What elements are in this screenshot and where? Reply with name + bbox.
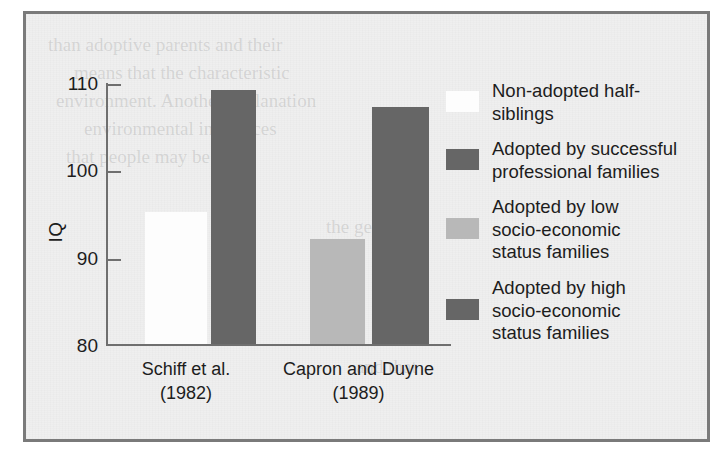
legend-label-line: status families — [492, 241, 621, 264]
bleed-line: than adoptive parents and their — [48, 32, 282, 57]
legend-item-adopted-high-ses: Adopted by high socio-economic status fa… — [446, 277, 701, 345]
legend-swatch-icon — [446, 91, 479, 112]
y-tick-label: 80 — [77, 335, 98, 357]
legend-swatch-icon — [446, 149, 479, 170]
legend-item-non-adopted-half-siblings: Non-adopted half- siblings — [446, 80, 701, 125]
legend: Non-adopted half- siblings Adopted by su… — [446, 80, 701, 358]
legend-label-line: siblings — [492, 103, 640, 126]
legend-label-line: Non-adopted half- — [492, 80, 640, 103]
bar-capron-adopted-low-ses — [310, 239, 365, 344]
y-axis-line — [106, 83, 108, 346]
category-label-line: (1982) — [106, 382, 266, 406]
legend-swatch-icon — [446, 299, 479, 320]
category-label-line: Schiff et al. — [106, 358, 266, 382]
category-label-line: (1989) — [266, 382, 451, 406]
legend-label: Non-adopted half- siblings — [492, 80, 640, 125]
figure-frame: than adoptive parents and their means th… — [23, 11, 710, 442]
legend-label-line: socio-economic — [492, 300, 626, 323]
legend-label-line: professional families — [492, 161, 677, 184]
category-label-line: Capron and Duyne — [266, 358, 451, 382]
y-tick-label: 110 — [68, 73, 98, 95]
legend-label: Adopted by successful professional famil… — [492, 138, 677, 183]
y-tick-label: 100 — [66, 160, 98, 182]
legend-label-line: socio-economic — [492, 219, 621, 242]
legend-label-line: Adopted by low — [492, 196, 621, 219]
y-axis-title: IQ — [45, 221, 67, 242]
x-axis-line — [106, 344, 451, 346]
plot-area: 110 100 90 80 — [106, 83, 451, 346]
legend-label-line: Adopted by high — [492, 277, 626, 300]
y-tick-label: 90 — [77, 248, 98, 270]
bleed-line: means that the characteristic — [74, 60, 290, 85]
legend-label-line: status families — [492, 322, 626, 345]
bar-schiff-non-adopted-half-siblings — [145, 212, 207, 344]
legend-label: Adopted by high socio-economic status fa… — [492, 277, 626, 345]
legend-item-adopted-low-ses: Adopted by low socio-economic status fam… — [446, 196, 701, 264]
bar-capron-adopted-high-ses — [372, 107, 429, 344]
category-label-schiff: Schiff et al. (1982) — [106, 358, 266, 406]
legend-item-adopted-successful-professional: Adopted by successful professional famil… — [446, 138, 701, 183]
legend-label-line: Adopted by successful — [492, 138, 677, 161]
legend-label: Adopted by low socio-economic status fam… — [492, 196, 621, 264]
category-label-capron: Capron and Duyne (1989) — [266, 358, 451, 406]
legend-swatch-icon — [446, 218, 479, 239]
bar-schiff-adopted-successful-professional — [211, 90, 256, 344]
